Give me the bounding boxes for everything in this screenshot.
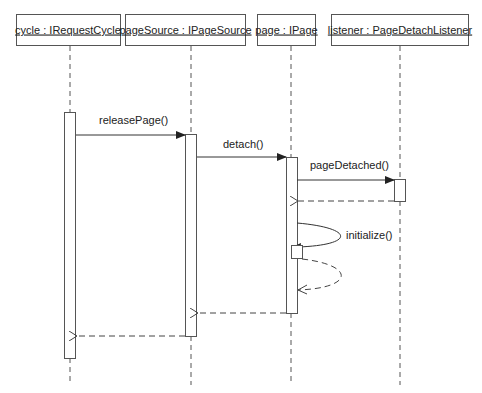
message-releasePage: releasePage()	[76, 114, 185, 135]
participant-label-page: page : IPage	[255, 24, 317, 36]
activation-listener	[395, 180, 406, 202]
participant-pageSource: pageSource : IPageSource	[119, 15, 251, 386]
message-label-initialize: initialize()	[346, 229, 392, 241]
self-call-arrow-initialize	[297, 223, 341, 247]
message-return-initialize	[298, 259, 341, 294]
participant-label-pageSource: pageSource : IPageSource	[119, 24, 251, 36]
sequence-diagram: cycle : IRequestCycle pageSource : IPage…	[0, 0, 482, 393]
message-detach: detach()	[197, 138, 286, 157]
activation-pageSource	[186, 135, 197, 337]
activation-page	[287, 158, 298, 314]
message-label-releasePage: releasePage()	[99, 114, 168, 126]
message-pageDetached: pageDetached()	[297, 159, 394, 180]
message-initialize: initialize()	[292, 223, 393, 259]
participant-listener: listener : PageDetachListener	[328, 15, 473, 386]
participant-cycle: cycle : IRequestCycle	[15, 15, 121, 386]
message-label-pageDetached: pageDetached()	[310, 159, 389, 171]
activation-cycle	[65, 113, 76, 359]
message-label-detach: detach()	[223, 138, 263, 150]
participant-label-listener: listener : PageDetachListener	[328, 24, 473, 36]
participant-label-cycle: cycle : IRequestCycle	[15, 24, 121, 36]
self-return-arrow-initialize	[298, 259, 341, 290]
activation-page-initialize	[292, 246, 303, 259]
participant-page: page : IPage	[255, 15, 317, 386]
